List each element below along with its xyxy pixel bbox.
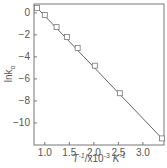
y-tick-label: −6 xyxy=(19,73,31,84)
data-point-square-marker xyxy=(75,46,80,51)
chart: 1.01.52.02.53.0 0−2−4−6−8−10 T-1/x10-3 K… xyxy=(0,0,167,168)
y-tick-label: −8 xyxy=(19,95,31,106)
y-axis-label: lnko xyxy=(3,66,16,83)
x-tick-label: 3.0 xyxy=(136,147,150,158)
y-axis-ticks: 0−2−4−6−8−10 xyxy=(13,7,37,128)
data-point-square-marker xyxy=(64,35,69,40)
data-point-square-marker xyxy=(42,13,47,18)
x-axis-label: T-1/x10-3 K-1 xyxy=(72,152,125,164)
data-point-square-marker xyxy=(160,136,165,141)
y-tick-label: −4 xyxy=(19,51,31,62)
y-tick-label: 0 xyxy=(24,7,30,18)
y-tick-label: −2 xyxy=(19,29,31,40)
y-tick-label: −10 xyxy=(13,117,30,128)
data-point-square-marker xyxy=(54,25,59,30)
data-point-square-marker xyxy=(117,91,122,96)
x-tick-label: 1.0 xyxy=(38,147,52,158)
data-point-square-marker xyxy=(34,5,39,10)
data-point-square-marker xyxy=(92,63,97,68)
